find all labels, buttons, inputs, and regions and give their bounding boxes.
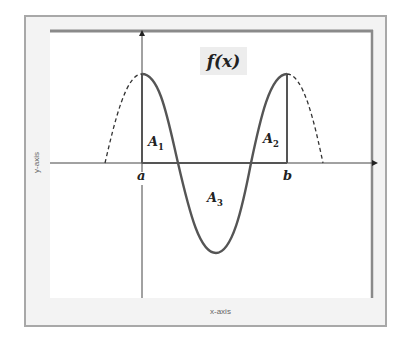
point-label-b: b (283, 168, 292, 183)
y-axis-title: y-axis (32, 152, 41, 173)
area-label-a3: A3 (207, 190, 223, 208)
area-label-a1: A1 (148, 134, 164, 152)
point-label-a: a (137, 168, 145, 183)
function-label: f(x) (200, 47, 247, 75)
area-label-a2: A2 (263, 131, 279, 149)
diagram-canvas: f(x) A1 A2 A3 a b x-axis y-axis (0, 0, 408, 345)
x-axis-title: x-axis (210, 307, 231, 316)
